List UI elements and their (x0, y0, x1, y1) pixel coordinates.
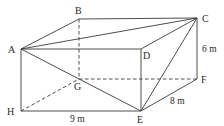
vertex-label-h: H (7, 106, 14, 117)
vertex-label-e: E (137, 114, 143, 125)
vertex-label-b: B (75, 5, 82, 16)
measurement-length: 9 m (70, 114, 85, 124)
diagonal-ce (141, 18, 197, 111)
vertex-label-c: C (202, 13, 209, 24)
edge-ab (21, 19, 79, 49)
measurement-height: 6 m (202, 44, 217, 54)
vertex-label-g: G (74, 81, 81, 92)
diagonal-ae (21, 49, 141, 111)
diagonal-ac (21, 18, 197, 49)
vertex-label-f: F (201, 74, 207, 85)
edge-hg (21, 79, 79, 111)
vertex-label-a: A (8, 44, 16, 55)
edge-fe (141, 79, 197, 111)
vertex-label-d: D (143, 50, 150, 61)
edge-bc (79, 18, 197, 19)
measurement-width: 8 m (170, 96, 185, 106)
cuboid-diagram: A B C D E F G H 6 m 9 m 8 m (0, 0, 224, 126)
